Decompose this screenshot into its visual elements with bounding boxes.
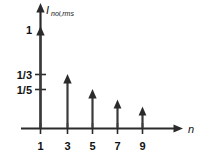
stem-n-7	[114, 100, 122, 129]
x-tick-label-5: 5	[89, 140, 95, 152]
stem-n-3	[63, 74, 71, 128]
x-axis-label: n	[188, 123, 194, 135]
stem-arrowhead-n-3	[63, 74, 71, 84]
y-axis-label: I noi,rms	[46, 4, 74, 17]
x-tick-label-9: 9	[139, 140, 145, 152]
x-tick-label-1: 1	[37, 140, 43, 152]
x-axis-group	[21, 124, 183, 132]
spectrum-plot: I noi,rms n 1 1/3 1/5 1 3 5 7 9	[0, 0, 216, 159]
x-axis-tick-labels: 1 3 5 7 9	[37, 140, 145, 152]
y-tick-label-one-fifth: 1/5	[17, 84, 32, 96]
y-axis-arrowhead	[36, 3, 44, 13]
y-axis-label-main: I	[46, 4, 49, 16]
y-axis-label-subscript: noi,rms	[51, 10, 74, 17]
x-tick-label-7: 7	[114, 140, 120, 152]
stem-arrowhead-n-7	[114, 100, 122, 109]
stem-arrowhead-n-9	[139, 107, 147, 116]
x-axis-arrowhead	[174, 124, 184, 132]
harmonic-spectrum-figure: I noi,rms n 1 1/3 1/5 1 3 5 7 9	[0, 0, 216, 159]
x-tick-label-3: 3	[64, 140, 70, 152]
stem-n-5	[88, 89, 96, 128]
stem-n-1	[36, 26, 44, 128]
y-tick-label-1: 1	[26, 24, 32, 36]
stem-arrowhead-n-5	[88, 89, 96, 99]
stem-arrowhead-n-1	[36, 26, 44, 36]
y-tick-label-one-third: 1/3	[17, 69, 32, 81]
y-axis-tick-labels: 1 1/3 1/5	[17, 24, 32, 96]
stem-n-9	[139, 107, 147, 129]
